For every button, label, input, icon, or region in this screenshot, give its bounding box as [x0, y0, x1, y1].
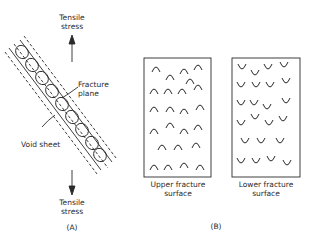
panel-b-label: (B): [204, 222, 228, 231]
lower-fracture-surface-box: [232, 58, 300, 177]
top-tensile-stress-label: Tensile stress: [56, 13, 88, 31]
upper-label-line1: Upper fracture: [140, 180, 216, 189]
diagram-canvas: [0, 0, 313, 241]
void-sheet-leader: [42, 115, 55, 127]
fracture-label-line2: plane: [78, 89, 109, 98]
lower-dimples: [237, 62, 291, 165]
lower-fracture-surface-label: Lower fracture surface: [228, 180, 304, 198]
upper-fracture-surface-label: Upper fracture surface: [140, 180, 216, 198]
lower-label-line1: Lower fracture: [228, 180, 304, 189]
void-sheet-label: Void sheet: [21, 140, 60, 149]
panel-a-label: (A): [60, 223, 84, 232]
bottom-label-line1: Tensile: [56, 198, 88, 207]
fracture-plane-label: Fracture plane: [78, 80, 109, 98]
upper-label-line2: surface: [140, 189, 216, 198]
void-sheet-band: [5, 36, 116, 174]
upper-dimples: [150, 65, 204, 170]
bottom-label-line2: stress: [56, 207, 88, 216]
top-label-line1: Tensile: [56, 13, 88, 22]
tensile-stress-up-arrow: [69, 35, 75, 62]
bottom-tensile-stress-label: Tensile stress: [56, 198, 88, 216]
lower-label-line2: surface: [228, 189, 304, 198]
upper-fracture-surface-box: [144, 58, 211, 177]
tensile-stress-down-arrow: [69, 170, 75, 195]
fracture-label-line1: Fracture: [78, 80, 109, 89]
top-label-line2: stress: [56, 22, 88, 31]
